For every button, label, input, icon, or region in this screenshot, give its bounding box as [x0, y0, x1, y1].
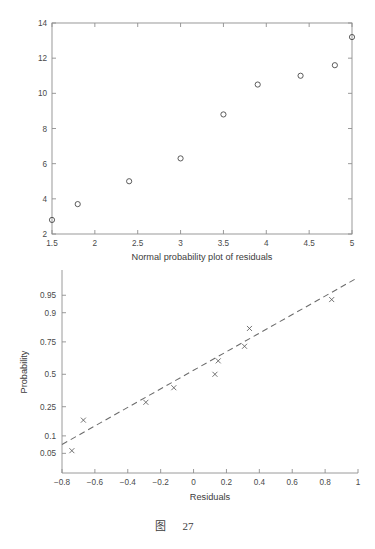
data-point-marker: [75, 202, 80, 207]
y-tick-label-top: 4: [42, 195, 47, 204]
y-axis-top: 2468101214: [38, 19, 352, 239]
y-tick-label-bottom: 0.05: [40, 449, 56, 458]
plot-frame-top: [52, 23, 352, 234]
x-tick-label-top: 3.5: [218, 239, 230, 248]
x-tick-label-bottom: −0.4: [120, 478, 137, 487]
caption-number: 27: [183, 520, 195, 532]
y-tick-label-group-bottom: 0.050.10.250.50.750.90.95: [40, 291, 56, 458]
x-tick-label-bottom: 0.6: [287, 478, 299, 487]
y-tick-label-top: 14: [38, 19, 48, 28]
x-tick-label-bottom: −0.8: [54, 478, 71, 487]
data-point-marker: [298, 73, 303, 78]
data-point-marker: [127, 179, 132, 184]
x-axis-top: 1.522.533.544.55: [46, 23, 354, 248]
reference-line-bottom: [62, 277, 358, 444]
chart-normal-probability-plot: 0.050.10.250.50.750.90.95 −0.8−0.6−0.4−0…: [19, 270, 361, 502]
x-tick-label-bottom: 0.2: [221, 478, 233, 487]
y-tick-label-top: 8: [42, 125, 47, 134]
data-markers-top: [49, 34, 354, 222]
x-tick-label-group-bottom: −0.8−0.6−0.4−0.200.20.40.60.81: [54, 478, 361, 487]
y-tick-label-bottom: 0.1: [45, 432, 57, 441]
y-tick-label-bottom: 0.75: [40, 338, 56, 347]
y-tick-label-top: 2: [42, 230, 47, 239]
x-tick-label-top: 2: [93, 239, 98, 248]
x-tick-label-top: 1.5: [46, 239, 58, 248]
x-tick-group-top: [52, 23, 352, 234]
x-tick-label-bottom: 1: [356, 478, 361, 487]
data-point-marker: [255, 82, 260, 87]
y-tick-label-top: 12: [38, 54, 48, 63]
data-markers-bottom: [69, 297, 334, 453]
x-tick-label-bottom: −0.6: [87, 478, 104, 487]
y-tick-label-bottom: 0.9: [45, 309, 57, 318]
y-tick-label-bottom: 0.5: [45, 370, 57, 379]
x-tick-label-bottom: 0.8: [319, 478, 331, 487]
x-tick-label-bottom: 0.4: [254, 478, 266, 487]
x-tick-label-top: 4.5: [303, 239, 315, 248]
data-point-marker: [247, 326, 252, 331]
x-axis-title-bottom: Residuals: [190, 492, 231, 502]
data-point-marker: [221, 112, 226, 117]
data-point-marker: [332, 63, 337, 68]
y-tick-label-bottom: 0.25: [40, 403, 56, 412]
data-point-marker: [242, 344, 247, 349]
figure-caption: 图 27: [155, 520, 195, 532]
data-point-marker: [69, 448, 74, 453]
figure-canvas: 2468101214 1.522.533.544.55 Normal proba…: [0, 0, 375, 549]
x-axis-bottom: −0.8−0.6−0.4−0.200.20.40.60.81: [54, 469, 361, 487]
data-point-marker: [329, 297, 334, 302]
x-tick-group-bottom: [62, 469, 358, 473]
x-tick-label-group-top: 1.522.533.544.55: [46, 239, 354, 248]
y-tick-group-bottom: [62, 295, 66, 453]
caption-prefix: 图: [155, 520, 166, 532]
x-tick-label-top: 3: [178, 239, 183, 248]
data-point-marker: [212, 372, 217, 377]
data-point-marker: [171, 385, 176, 390]
chart-residuals-scatter: 2468101214 1.522.533.544.55 Normal proba…: [38, 19, 355, 262]
x-tick-label-bottom: −0.2: [153, 478, 170, 487]
y-tick-label-top: 6: [42, 160, 47, 169]
y-axis-title-bottom: Probability: [19, 350, 29, 393]
data-point-marker: [216, 358, 221, 363]
x-axis-title-top: Normal probability plot of residuals: [132, 252, 273, 262]
x-tick-label-top: 5: [350, 239, 355, 248]
x-tick-label-bottom: 0: [191, 478, 196, 487]
data-point-marker: [143, 400, 148, 405]
figure-page: 2468101214 1.522.533.544.55 Normal proba…: [0, 0, 375, 549]
x-tick-label-top: 2.5: [132, 239, 144, 248]
data-point-marker: [81, 418, 86, 423]
y-tick-label-group-top: 2468101214: [38, 19, 48, 239]
y-tick-label-top: 10: [38, 89, 48, 98]
data-point-marker: [178, 156, 183, 161]
x-tick-label-top: 4: [264, 239, 269, 248]
y-tick-label-bottom: 0.95: [40, 291, 56, 300]
y-tick-group-top: [52, 23, 352, 234]
